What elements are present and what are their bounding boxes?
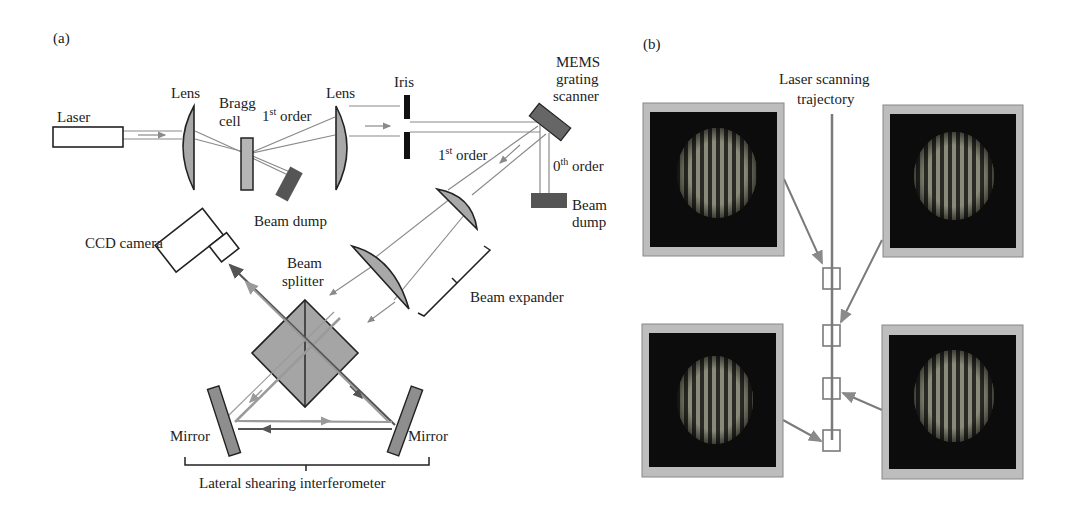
lens-1 <box>183 106 194 190</box>
ccd-camera <box>155 206 239 288</box>
fringe-image-bottom-right <box>882 325 1023 479</box>
mems-label-2: grating <box>556 71 599 87</box>
beam-expander-paths <box>330 195 470 322</box>
fringe-image-top-left <box>643 103 784 256</box>
laser-label: Laser <box>57 109 90 125</box>
beam-splitter-label-2: splitter <box>282 273 324 289</box>
mems-label-1: MEMS <box>556 54 600 70</box>
lens-1-label: Lens <box>171 85 200 101</box>
zeroth-order-label: 0th order <box>553 156 604 174</box>
interferometer-beam-paths <box>228 265 395 429</box>
interferometer-label: Lateral shearing interferometer <box>199 475 386 491</box>
fringe-image-bottom-left <box>642 324 783 477</box>
bragg-cell <box>241 138 253 190</box>
mirror-right-label: Mirror <box>408 428 448 444</box>
first-order-top-label: 1st order <box>262 106 312 124</box>
figure-canvas: (a) Laser Lens <box>0 0 1070 515</box>
iris-bottom <box>404 132 410 159</box>
panel-b: (b) Laser scanning trajectory <box>642 36 1023 479</box>
beam-dump-right <box>531 193 567 208</box>
laser-source <box>53 127 123 147</box>
mirror-right <box>387 386 422 456</box>
beam-splitter-label-1: Beam <box>287 255 322 271</box>
lens-2 <box>336 106 347 190</box>
mems-label-3: scanner <box>553 88 599 104</box>
panel-b-label: (b) <box>643 36 661 53</box>
beam-dump-right-label-1: Beam <box>572 197 607 213</box>
bracket-tick <box>452 278 457 283</box>
first-order-mid-label: 1st order <box>438 145 488 163</box>
interferometer-bracket <box>185 457 429 465</box>
iris-label: Iris <box>394 74 414 90</box>
lens-2-label: Lens <box>326 85 355 101</box>
trajectory-label-1: Laser scanning <box>779 71 870 87</box>
bragg-label-1: Bragg <box>219 95 256 111</box>
panel-a: (a) Laser Lens <box>53 30 607 491</box>
expander-lens-2 <box>352 246 409 309</box>
fringe-image-top-right <box>883 105 1023 257</box>
trajectory-label-2: trajectory <box>797 91 855 107</box>
panel-a-label: (a) <box>53 30 70 47</box>
beam-dump-left-label: Beam dump <box>254 213 327 229</box>
ccd-camera-label: CCD camera <box>85 235 163 251</box>
beam-expander-label: Beam expander <box>470 289 564 305</box>
beam-dump-left <box>275 167 302 202</box>
iris-top <box>404 95 410 119</box>
bragg-label-2: cell <box>219 113 241 129</box>
mirror-left-label: Mirror <box>170 428 210 444</box>
beam-dump-right-label-2: dump <box>572 214 606 230</box>
